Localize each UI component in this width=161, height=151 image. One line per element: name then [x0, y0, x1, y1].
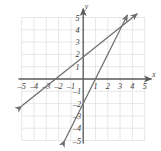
line-2-steep [65, 15, 128, 141]
axis-lines [19, 9, 152, 144]
x-tick-label: 3 [117, 82, 122, 91]
x-tick-label: 1 [93, 82, 97, 91]
x-tick-labels: –5 –4 –3 –2 –1 1 2 3 4 5 [17, 82, 147, 91]
x-tick-label: 5 [143, 82, 147, 91]
y-tick-label: 4 [75, 26, 79, 35]
y-tick-label: 2 [75, 50, 79, 59]
x-axis-label: x [151, 70, 156, 79]
y-tick-label: –4 [72, 124, 81, 133]
y-tick-label: –2 [72, 100, 81, 109]
y-axis-label: y [84, 2, 89, 11]
x-tick-label: –5 [17, 82, 26, 91]
graph-canvas: –5 –4 –3 –2 –1 1 2 3 4 5 5 4 3 2 1 –1 –2… [0, 0, 161, 151]
y-tick-label: 5 [75, 14, 79, 23]
coordinate-plane-graph: –5 –4 –3 –2 –1 1 2 3 4 5 5 4 3 2 1 –1 –2… [0, 0, 161, 151]
x-tick-label: –2 [54, 82, 63, 91]
y-tick-label: –5 [72, 137, 81, 146]
x-tick-label: –3 [41, 82, 50, 91]
y-tick-label: –1 [72, 87, 81, 96]
y-tick-label: 3 [74, 38, 79, 47]
y-tick-label: –3 [72, 112, 81, 121]
x-tick-label: 4 [130, 82, 134, 91]
x-tick-label: –4 [29, 82, 38, 91]
x-tick-label: 2 [106, 82, 110, 91]
y-tick-label: 1 [75, 63, 79, 72]
